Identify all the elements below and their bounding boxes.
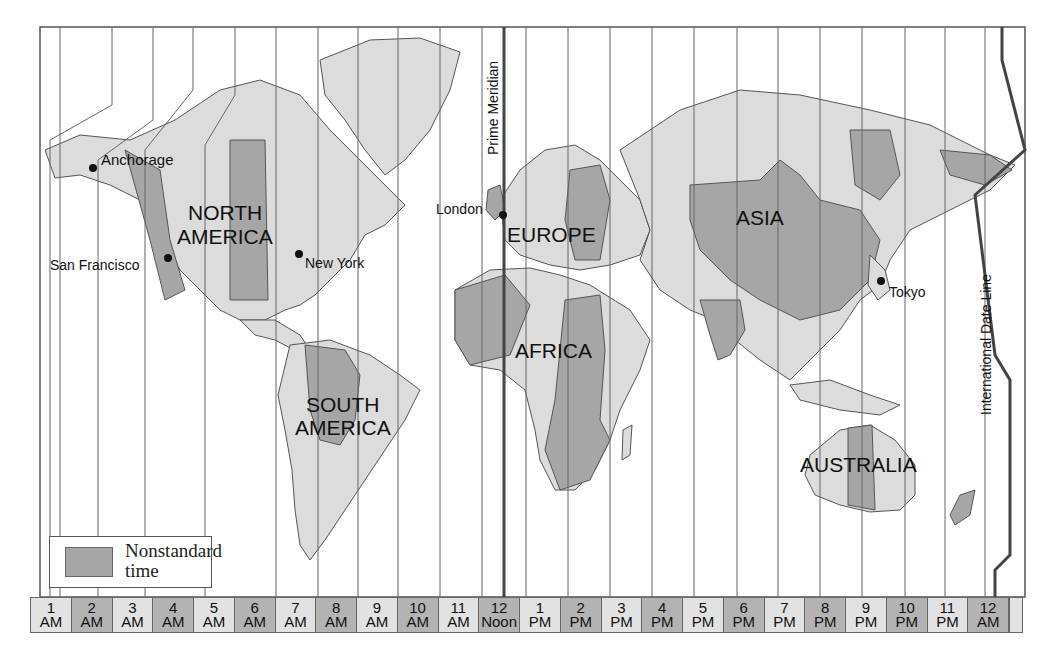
city-label-san-francisco: San Francisco [50,257,140,273]
time-zone-period: PM [855,615,878,629]
city-dot-london [499,211,507,219]
time-zone-period: AM [325,615,348,629]
prime-meridian-label: Prime Meridian [485,61,501,155]
time-zone-period: AM [284,615,307,629]
time-zone-cell: 10AM [398,598,439,632]
time-zone-cell: 3PM [602,598,643,632]
time-zone-period: AM [447,615,470,629]
time-zone-period: AM [366,615,389,629]
madagascar [622,425,632,460]
time-zone-cell: 2AM [72,598,113,632]
time-zone-period: AM [162,615,185,629]
time-zone-cell: 8AM [316,598,357,632]
time-zone-cell: 8PM [805,598,846,632]
legend-label: Nonstandard time [125,541,222,581]
city-dot-san-francisco [164,254,172,262]
time-zone-bar: 1AM2AM3AM4AM5AM6AM7AM8AM9AM10AM11AM12Noo… [30,597,1023,633]
time-zone-bar-end [1009,598,1022,632]
label-north-america-1: NORTH [188,201,262,224]
time-zone-cell: 6PM [724,598,765,632]
time-zone-cell: 1PM [520,598,561,632]
time-zone-cell: 3AM [113,598,154,632]
legend: Nonstandard time [49,536,212,588]
time-zone-cell: 7PM [765,598,806,632]
label-australia: AUSTRALIA [800,453,917,476]
time-zone-cell: 9PM [846,598,887,632]
time-zone-period: PM [732,615,755,629]
time-zone-cell: 9AM [357,598,398,632]
time-zone-period: PM [610,615,633,629]
city-label-anchorage: Anchorage [101,151,174,168]
label-africa: AFRICA [515,339,592,362]
label-europe: EUROPE [507,223,596,246]
time-zone-period: PM [569,615,592,629]
time-zone-period: AM [121,615,144,629]
time-zone-period: AM [40,615,63,629]
city-dot-tokyo [877,277,885,285]
city-dot-anchorage [89,164,97,172]
time-zone-cell: 7AM [276,598,317,632]
city-label-tokyo: Tokyo [889,284,926,300]
time-zone-cell: 11PM [928,598,969,632]
city-dot-new-york [295,250,303,258]
time-zone-period: PM [529,615,552,629]
time-zone-cell: 5AM [194,598,235,632]
time-zone-cell: 12Noon [479,598,520,632]
legend-swatch-nonstandard [65,547,113,577]
time-zone-cell: 4PM [642,598,683,632]
time-zone-period: PM [814,615,837,629]
label-north-america-2: AMERICA [177,225,273,248]
time-zone-period: PM [692,615,715,629]
time-zone-period: AM [80,615,103,629]
time-zone-period: AM [406,615,429,629]
time-zone-period: PM [936,615,959,629]
time-zone-period: AM [203,615,226,629]
world-time-zone-map: Prime Meridian International Date Line N… [0,0,1055,663]
time-zone-period: PM [651,615,674,629]
time-zone-cell: 2PM [561,598,602,632]
label-south-america-1: SOUTH [306,393,380,416]
city-label-london: London [436,201,483,217]
time-zone-cell: 5PM [683,598,724,632]
time-zone-period: AM [243,615,266,629]
date-line-label: International Date Line [978,274,994,415]
time-zone-cell: 11AM [439,598,480,632]
time-zone-cell: 10PM [887,598,928,632]
time-zone-cell: 12AM [968,598,1009,632]
label-south-america-2: AMERICA [295,416,391,439]
time-zone-cell: 1AM [31,598,72,632]
label-asia: ASIA [736,206,784,229]
time-zone-cell: 4AM [153,598,194,632]
time-zone-period: PM [773,615,796,629]
time-zone-period: Noon [481,615,517,629]
city-label-new-york: New York [305,255,365,271]
time-zone-period: AM [977,615,1000,629]
time-zone-period: PM [895,615,918,629]
time-zone-cell: 6AM [235,598,276,632]
